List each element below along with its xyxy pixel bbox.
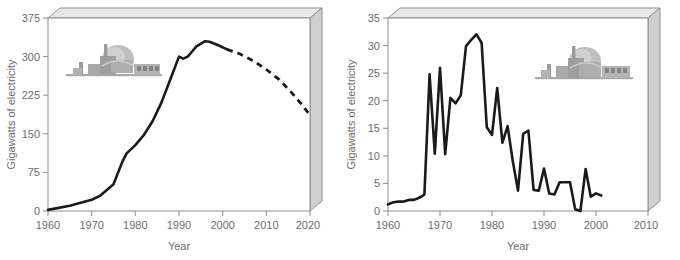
figure-container: 0 75 150 225 300 375 1960 1970 1980 1990 — [0, 0, 680, 260]
chart-left-xtick-5: 2010 — [254, 219, 278, 231]
chart-left-ytick-5: 375 — [22, 12, 40, 24]
chart-right-ytick-6: 30 — [368, 40, 380, 52]
chart-right-xtick-2: 1980 — [480, 219, 504, 231]
chart-left-ytick-4: 300 — [22, 51, 40, 63]
chart-left-xlabel: Year — [168, 240, 191, 252]
chart-left-xtick-6: 2020 — [296, 219, 320, 231]
chart-right-xtick-3: 1990 — [532, 219, 556, 231]
chart-left-ytick-1: 75 — [28, 166, 40, 178]
chart-right-xtick-4: 2000 — [584, 219, 608, 231]
chart-right-xlabel: Year — [507, 240, 530, 252]
chart-right-xtick-1: 1970 — [428, 219, 452, 231]
chart-left-xtick-1: 1970 — [79, 219, 103, 231]
chart-panel-right: 0 5 10 15 20 25 30 35 1960 1970 1980 — [340, 0, 680, 260]
chart-left-xaxis: 1960 1970 1980 1990 2000 2010 2020 — [36, 211, 320, 231]
chart-left-ytick-0: 0 — [34, 205, 40, 217]
chart-left-xtick-0: 1960 — [36, 219, 60, 231]
chart-right-ytick-5: 25 — [368, 67, 380, 79]
chart-right-ytick-1: 5 — [374, 177, 380, 189]
chart-panel-left: 0 75 150 225 300 375 1960 1970 1980 1990 — [0, 0, 340, 260]
chart-left-ytick-3: 225 — [22, 89, 40, 101]
chart-left-xtick-2: 1980 — [123, 219, 147, 231]
chart-right-ytick-0: 0 — [374, 205, 380, 217]
chart-right-yaxis: 0 5 10 15 20 25 30 35 — [368, 12, 388, 217]
chart-right-xtick-5: 2010 — [634, 219, 658, 231]
chart-left-xtick-4: 2000 — [210, 219, 234, 231]
chart-left-frame — [48, 8, 322, 211]
chart-left-ylabel: Gigawatts of electricity — [5, 59, 17, 170]
chart-right-ytick-2: 10 — [368, 150, 380, 162]
chart-right-svg: 0 5 10 15 20 25 30 35 1960 1970 1980 — [340, 0, 680, 260]
chart-left-xtick-3: 1990 — [167, 219, 191, 231]
chart-right-ytick-4: 20 — [368, 95, 380, 107]
chart-right-xaxis: 1960 1970 1980 1990 2000 2010 — [376, 211, 658, 231]
chart-right-xtick-0: 1960 — [376, 219, 400, 231]
chart-right-ylabel: Gigawatts of electricity — [345, 59, 357, 170]
chart-right-ytick-3: 15 — [368, 122, 380, 134]
chart-left-ytick-2: 150 — [22, 128, 40, 140]
chart-left-yaxis: 0 75 150 225 300 375 — [22, 12, 48, 217]
chart-right-ytick-7: 35 — [368, 12, 380, 24]
chart-left-svg: 0 75 150 225 300 375 1960 1970 1980 1990 — [0, 0, 340, 260]
